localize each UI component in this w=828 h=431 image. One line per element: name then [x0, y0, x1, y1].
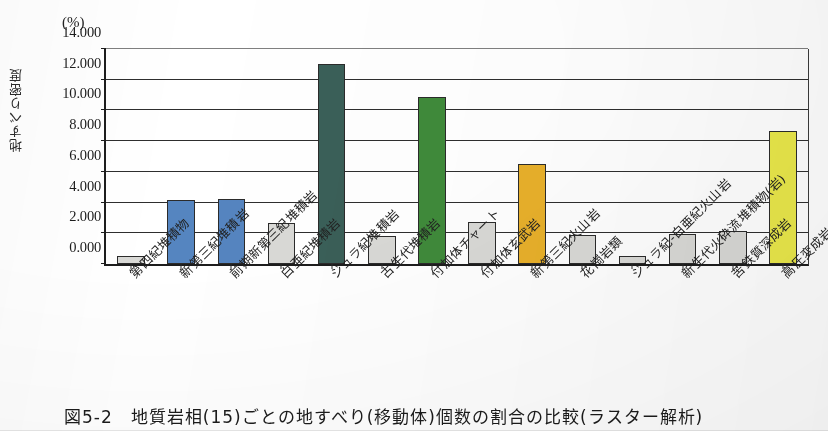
bar-slot: [106, 49, 156, 264]
x-axis-tick-label: 花崗岩類: [576, 268, 589, 281]
y-axis-tick-label: 6.000: [69, 146, 101, 163]
x-axis-tick-label: 第四紀堆積物: [125, 268, 138, 281]
y-axis-tick-label: 4.000: [69, 177, 101, 194]
x-axis-tick-label: 前期新第三紀堆積岩: [225, 268, 238, 281]
y-axis-tick-label: 12.000: [62, 54, 101, 71]
plot-area: 14.00012.00010.0008.0006.0004.0002.0000.…: [104, 49, 809, 266]
x-axis-tick-label-text: 新第三紀堆積岩: [175, 268, 188, 281]
x-axis-tick-label-text: 古生代堆積岩: [376, 268, 389, 281]
y-axis-tick-label: 14.000: [62, 24, 101, 41]
x-axis-tick-label-text: 白亜紀堆積岩: [275, 268, 288, 281]
x-axis-tick-label: ジュラ紀-白亜紀火山岩: [626, 268, 639, 281]
x-axis-tick-label-text: ジュラ紀堆積岩: [325, 268, 338, 281]
x-axis-tick-label: 付加体玄武岩: [476, 268, 489, 281]
x-axis-tick-label: 新第三紀火山岩: [526, 268, 539, 281]
x-axis-tick-label: 新第三紀堆積岩: [175, 268, 188, 281]
x-axis-tick-label-text: ジュラ紀-白亜紀火山岩: [626, 268, 639, 281]
y-axis-tick-label: 10.000: [62, 85, 101, 102]
x-axis-tick-label-text: 新生代火砕流堆積物(岩): [676, 268, 689, 281]
x-axis-tick-label: 苦鉄質深成岩: [727, 268, 740, 281]
x-axis-tick-label-text: 新第三紀火山岩: [526, 268, 539, 281]
y-axis-tick-label: 8.000: [69, 116, 101, 133]
x-axis-tick-label-text: 高圧変成岩: [777, 268, 790, 281]
y-axis-tick-label: 0.000: [69, 239, 101, 256]
x-axis-tick-label: 古生代堆積岩: [376, 268, 389, 281]
x-axis-tick-label: 白亜紀堆積岩: [275, 268, 288, 281]
y-axis-title: 地すべり密度: [8, 68, 28, 152]
x-axis-tick-label: 新生代火砕流堆積物(岩): [676, 268, 689, 281]
bars-group: [106, 49, 808, 264]
x-axis-tick-label-text: 付加体チャート: [426, 268, 439, 281]
x-axis-tick-label: 高圧変成岩: [777, 268, 790, 281]
x-axis-tick-label-text: 花崗岩類: [576, 268, 589, 281]
x-axis-tick-label-text: 苦鉄質深成岩: [727, 268, 740, 281]
figure-caption: 図5-2 地質岩相(15)ごとの地すべり(移動体)個数の割合の比較(ラスター解析…: [64, 404, 824, 430]
figure-chart-landslide-density: (%) 地すべり密度 14.00012.00010.0008.0006.0004…: [0, 0, 828, 431]
x-axis-tick-label-text: 前期新第三紀堆積岩: [225, 268, 238, 281]
x-axis-tick-label: ジュラ紀堆積岩: [325, 268, 338, 281]
bar-slot: [607, 49, 657, 264]
x-axis-tick-label-text: 第四紀堆積物: [125, 268, 138, 281]
y-axis-tick-label: 2.000: [69, 208, 101, 225]
x-axis-tick-label-text: 付加体玄武岩: [476, 268, 489, 281]
x-axis-tick-label: 付加体チャート: [426, 268, 439, 281]
